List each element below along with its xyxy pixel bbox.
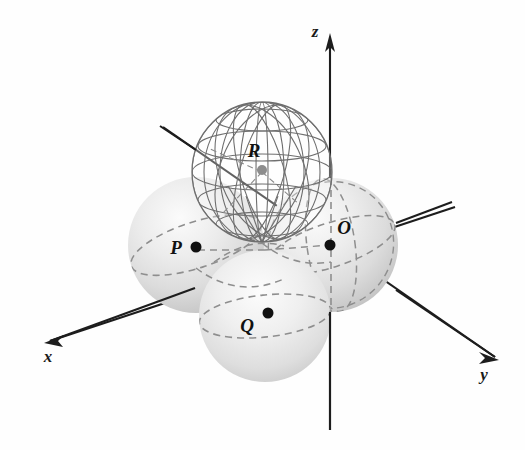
label-sphere-O: O [337, 217, 351, 238]
geometry-figure: P O Q R z x y [0, 0, 525, 450]
label-y-axis: y [478, 365, 488, 384]
center-dot-R [257, 165, 267, 175]
label-sphere-Q: Q [240, 315, 254, 336]
label-z-axis: z [311, 22, 319, 41]
label-sphere-R: R [247, 140, 261, 161]
center-dot-Q [263, 308, 274, 319]
center-dot-P [191, 242, 202, 253]
center-dot-O [325, 240, 336, 251]
label-sphere-P: P [169, 237, 182, 258]
figure-canvas: P O Q R z x y [0, 0, 525, 450]
label-x-axis: x [43, 347, 53, 366]
